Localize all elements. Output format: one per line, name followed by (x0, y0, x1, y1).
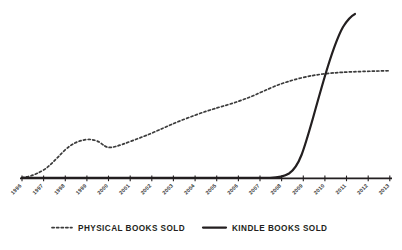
line-chart: 1996 1997 1998 1999 2000 2001 2002 2003 … (0, 0, 402, 250)
chart-plot-area: 1996 1997 1998 1999 2000 2001 2002 2003 … (0, 0, 402, 250)
chart-background (0, 0, 402, 250)
legend-label-physical-books-sold: PHYSICAL BOOKS SOLD (78, 224, 185, 233)
legend-label-kindle-books-sold: KINDLE BOOKS SOLD (232, 224, 327, 233)
